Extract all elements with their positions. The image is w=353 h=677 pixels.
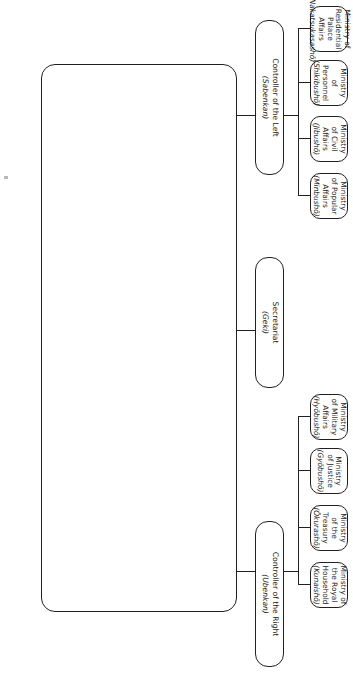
node-label-jp: (Jibushō) [311, 123, 320, 155]
node-ministry-popular-affairs[interactable]: Ministry of Popular Affairs (Minbushō) [310, 173, 348, 219]
node-label-en: Ministry of Civil Affairs [321, 120, 347, 158]
node-ministry-personnel[interactable]: Ministry of Personnel (Shikibushō) [310, 60, 348, 106]
node-ministry-civil-affairs[interactable]: Ministry of Civil Affairs (Jibushō) [310, 116, 348, 162]
node-label-en: Controller of the Left [270, 58, 279, 137]
org-chart-canvas: Ministry of Residential Palace Affairs (… [0, 0, 353, 677]
node-controller-of-the-right[interactable]: Controller of the Right (Ubenkan) [255, 521, 284, 667]
node-label-jp: (Nakatsukasashō) [307, 0, 316, 62]
node-label-jp: (Geki) [260, 311, 269, 334]
node-secretariat[interactable]: Secretariat (Geki) [255, 257, 284, 388]
node-label-en: Ministry of Military Affairs [321, 398, 347, 436]
node-controller-of-the-left[interactable]: Controller of the Left (Sabenkan) [255, 20, 284, 175]
node-label-en: Secretariat [270, 302, 279, 344]
connector-ministry-8-link [298, 571, 299, 585]
node-label-en: Ministry of Justice [325, 452, 342, 490]
node-label-jp: (Hyōbushō) [311, 396, 320, 439]
node-label-jp: (Kunaishō) [311, 565, 320, 604]
connector-controller-left-stub [283, 115, 299, 116]
node-label-jp: (Minbushō) [311, 175, 320, 216]
scan-artifact-speck [4, 176, 8, 179]
connector-controller-left-bus [298, 28, 299, 196]
node-ministry-military-affairs[interactable]: Ministry of Military Affairs (Hyōbushō) [310, 394, 348, 440]
connector-controller-right-bus [298, 416, 299, 572]
connector-council-to-controller-right [237, 571, 255, 572]
node-label-jp: (Ōkurashō) [311, 507, 320, 548]
node-ministry-justice[interactable]: Ministry of Justice (Gyōbushō) [310, 448, 348, 494]
connector-council-to-secretariat [237, 330, 255, 331]
node-label-jp: (Shikibushō) [311, 60, 320, 106]
node-council-of-state[interactable] [41, 64, 237, 612]
node-label-en: Controller of the Right [270, 552, 279, 636]
connector-controller-right-stub [283, 571, 299, 572]
node-label-en: Ministry of Residential Palace Affairs [317, 9, 351, 50]
node-ministry-royal-household[interactable]: Ministry of the Royal Household (Kunaish… [310, 562, 348, 608]
node-label-jp: (Gyōbushō) [316, 450, 325, 493]
node-label-jp: (Sabenkan) [260, 76, 269, 120]
node-label-jp: (Ubenkan) [260, 574, 269, 614]
node-label-en: Ministry of the Royal Household [321, 565, 347, 604]
node-ministry-residential-palace-affairs[interactable]: Ministry of Residential Palace Affairs (… [310, 6, 348, 52]
connector-council-to-controller-left [237, 115, 255, 116]
node-label-en: Ministry of Personnel [321, 64, 347, 102]
node-ministry-treasury[interactable]: Ministry of the Treasury (Ōkurashō) [310, 505, 348, 551]
node-label-en: Ministry of the Treasury [321, 509, 347, 547]
node-label-en: Ministry of Popular Affairs [321, 177, 347, 215]
